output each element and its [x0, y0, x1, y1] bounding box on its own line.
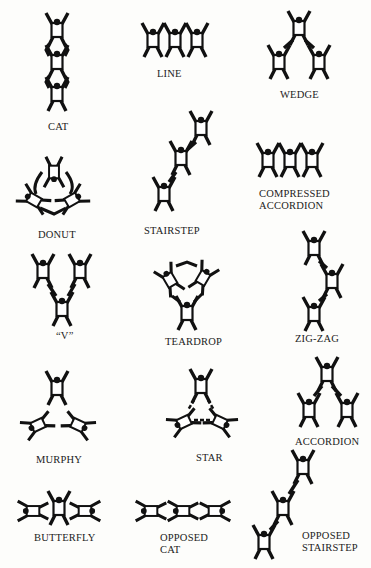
- formation-donut: [16, 157, 90, 217]
- formation-stairstep: [153, 111, 212, 211]
- label-compressed-accordion-line2: ACCORDION: [259, 200, 323, 212]
- formation-murphy: [20, 371, 96, 440]
- label-zig-zag: ZIG-ZAG: [295, 333, 339, 345]
- label-murphy: MURPHY: [36, 454, 82, 466]
- label-wedge: WEDGE: [280, 89, 319, 101]
- label-cat: CAT: [48, 121, 68, 133]
- label-line: LINE: [157, 68, 182, 80]
- label-accordion: ACCORDION: [295, 436, 359, 448]
- label-stairstep: STAIRSTEP: [144, 225, 200, 237]
- formation-butterfly: [18, 491, 101, 525]
- label-opposed-stairstep-line2: STAIRSTEP: [302, 542, 358, 554]
- label-star: STAR: [196, 452, 223, 464]
- formation-accordion: [298, 357, 358, 427]
- label-compressed-accordion-line1: COMPRESSED: [259, 188, 330, 200]
- label-opposed-cat-line1: OPPOSED: [160, 532, 208, 544]
- label-opposed-cat-line2: CAT: [160, 544, 180, 556]
- label-butterfly: BUTTERFLY: [34, 532, 95, 544]
- label-donut: DONUT: [38, 229, 76, 241]
- formation-v: [32, 254, 91, 326]
- formation-zig-zag: [303, 231, 343, 331]
- formation-compressed-accordion: [257, 143, 323, 177]
- formation-teardrop: [154, 260, 219, 330]
- formation-cat: [46, 13, 68, 111]
- formation-diagram: [0, 0, 371, 568]
- label-teardrop: TEARDROP: [165, 336, 222, 348]
- label-opposed-stairstep-line1: OPPOSED: [302, 530, 350, 542]
- formation-star: [166, 369, 238, 437]
- label-v: “V”: [56, 330, 74, 342]
- formation-opposed-cat: [136, 501, 231, 521]
- formation-wedge: [268, 11, 330, 79]
- formation-line: [142, 23, 208, 57]
